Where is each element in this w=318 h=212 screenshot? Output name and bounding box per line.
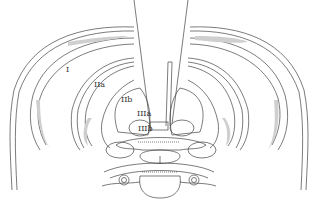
left-shade-bottom: [36, 100, 50, 148]
vertebra: [102, 138, 216, 199]
label-I: I: [66, 66, 69, 74]
right-lobe-shade: [222, 118, 230, 146]
left-lobe-shade: [84, 118, 93, 146]
right-inner-lobes: [188, 58, 249, 150]
instrument-shafts: [134, 0, 188, 126]
label-IIIb: IIIb: [138, 125, 153, 133]
right-outer-wall: [190, 27, 308, 190]
anatomy-diagram: [0, 0, 318, 212]
label-IIa: IIa: [94, 81, 105, 89]
left-shade-top: [68, 36, 128, 46]
label-IIIa: IIIa: [137, 110, 151, 118]
label-IIb: IIb: [121, 96, 132, 104]
left-inner-lobes: [71, 58, 134, 150]
